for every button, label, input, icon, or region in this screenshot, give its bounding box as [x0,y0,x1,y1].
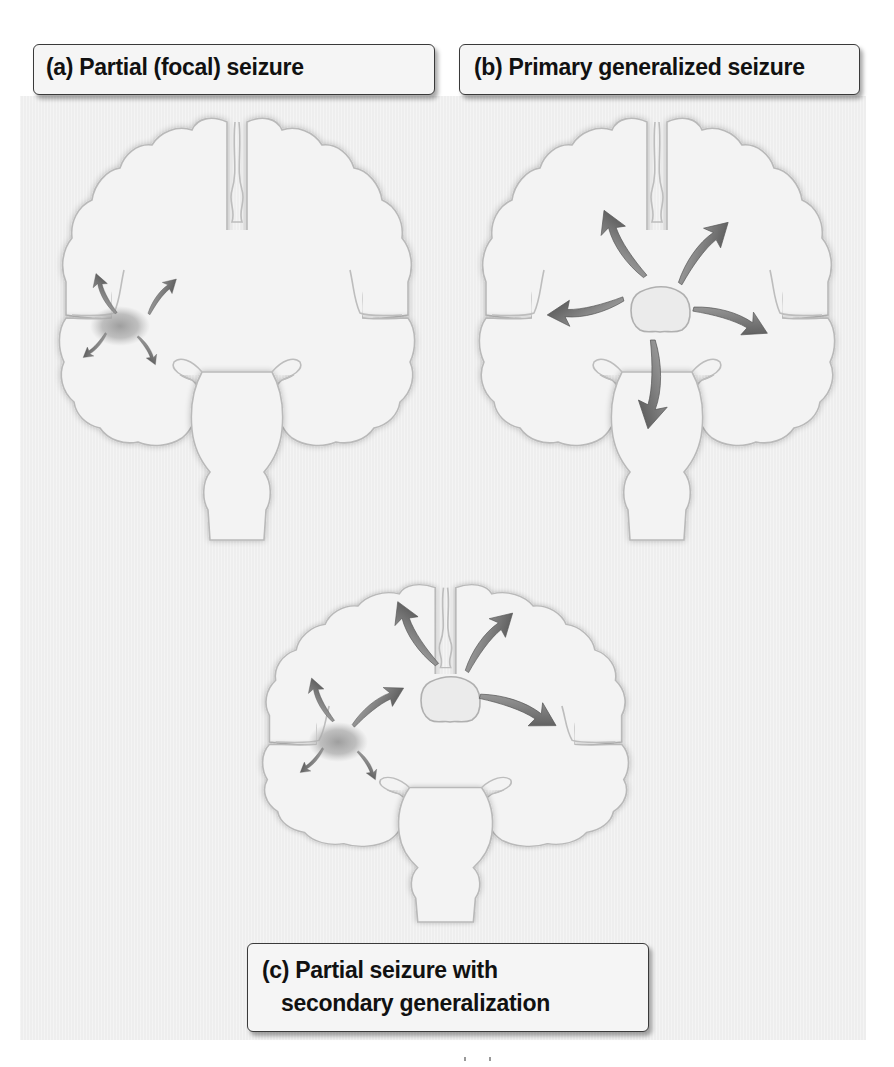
crop-mark [489,1057,491,1061]
panel-c-title-line1: (c) Partial seizure with [262,957,498,983]
panel-c-label: (c) Partial seizure with secondary gener… [247,943,649,1032]
seizure-diagram [0,0,894,1067]
panel-a-title: (a) Partial (focal) seizure [46,54,304,80]
panel-a-label: (a) Partial (focal) seizure [33,44,435,95]
panel-b-title: (b) Primary generalized seizure [474,54,805,80]
crop-mark [464,1057,466,1061]
thalamus-icon [421,677,480,722]
thalamus-icon [631,287,690,332]
panel-c-thalamus [421,677,480,722]
panel-b-thalamus [631,287,690,332]
panel-c-title-line2: secondary generalization [262,987,648,1020]
panel-b-label: (b) Primary generalized seizure [459,44,860,95]
